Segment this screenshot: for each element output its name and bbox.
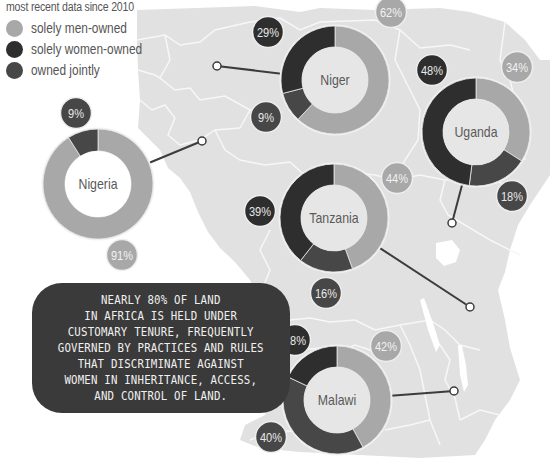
location-pin-icon: [198, 137, 206, 145]
svg-text:9%: 9%: [68, 106, 84, 121]
legend-swatch-women: [6, 41, 23, 58]
percent-badge-men: 91%: [107, 240, 138, 271]
percent-badge-women: 39%: [245, 196, 276, 227]
callout-line: customary tenure, frequently: [58, 324, 264, 340]
donut-country-label: Nigeria: [79, 176, 119, 192]
donut-country-label: Tanzania: [309, 210, 359, 226]
percent-badge-men: 34%: [502, 52, 533, 83]
donut-country-label: Malawi: [318, 392, 356, 408]
legend-label-men: solely men-owned: [31, 20, 127, 36]
infographic: Niger62%9%29%Uganda34%18%48%Nigeria9%91%…: [0, 0, 550, 461]
svg-text:48%: 48%: [421, 63, 443, 78]
callout-line: that discriminate against: [58, 356, 264, 372]
legend-swatch-men: [6, 20, 23, 37]
svg-text:29%: 29%: [257, 25, 279, 40]
svg-text:42%: 42%: [375, 339, 397, 354]
percent-badge-men: 62%: [376, 0, 407, 28]
svg-text:91%: 91%: [111, 248, 133, 263]
callout-line: and control of land.: [58, 388, 264, 404]
legend-item-women: solely women-owned: [6, 40, 162, 58]
percent-badge-joint: 40%: [256, 422, 287, 453]
percent-badge-women: 48%: [417, 55, 448, 86]
legend-label-joint: owned jointly: [31, 62, 100, 78]
location-pin-icon: [448, 219, 456, 227]
location-pin-icon: [213, 62, 221, 70]
percent-badge-joint: 16%: [311, 278, 342, 309]
donut-country-label: Niger: [320, 72, 350, 88]
svg-text:62%: 62%: [380, 5, 402, 20]
svg-text:18%: 18%: [501, 189, 523, 204]
percent-badge-men: 42%: [371, 331, 402, 362]
customary-tenure-callout: Nearly 80% of land in Africa is held und…: [32, 283, 290, 413]
location-pin-icon: [466, 303, 474, 311]
legend-item-men: solely men-owned: [6, 19, 144, 37]
legend-swatch-joint: [6, 62, 23, 79]
donut-country-label: Uganda: [454, 124, 498, 140]
percent-badge-women: 29%: [253, 17, 284, 48]
svg-text:39%: 39%: [249, 204, 271, 219]
callout-line: in Africa is held under: [58, 308, 264, 324]
legend-item-joint: owned jointly: [6, 61, 112, 79]
svg-text:40%: 40%: [260, 430, 282, 445]
legend-title: most recent data since 2010: [6, 0, 134, 14]
percent-badge-men: 44%: [382, 163, 413, 194]
svg-text:16%: 16%: [315, 286, 337, 301]
svg-text:34%: 34%: [506, 60, 528, 75]
percent-badge-joint: 9%: [61, 98, 92, 129]
donut-nigeria: Nigeria9%91%: [42, 98, 155, 271]
callout-text: Nearly 80% of land in Africa is held und…: [41, 292, 281, 404]
callout-line: Nearly 80% of land: [58, 292, 264, 308]
svg-text:44%: 44%: [386, 171, 408, 186]
location-pin-icon: [450, 387, 458, 395]
legend-label-women: solely women-owned: [31, 41, 142, 57]
percent-badge-joint: 9%: [251, 102, 282, 133]
callout-line: women in inheritance, access,: [58, 372, 264, 388]
svg-text:9%: 9%: [258, 110, 274, 125]
callout-line: governed by practices and rules: [58, 340, 264, 356]
percent-badge-joint: 18%: [497, 181, 528, 212]
